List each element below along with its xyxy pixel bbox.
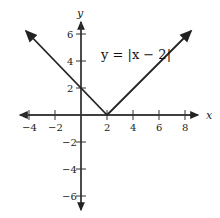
svg-text:−2: −2 bbox=[48, 122, 63, 133]
svg-text:6: 6 bbox=[156, 122, 162, 133]
svg-text:2: 2 bbox=[67, 83, 73, 94]
svg-text:4: 4 bbox=[130, 122, 136, 133]
svg-text:−6: −6 bbox=[62, 191, 77, 202]
svg-text:6: 6 bbox=[67, 29, 73, 40]
graph-canvas: x y −4 −2 2 4 6 8 6 4 2 −2 −4 −6 bbox=[0, 0, 220, 218]
svg-text:−4: −4 bbox=[62, 164, 77, 175]
svg-text:−2: −2 bbox=[62, 137, 77, 148]
x-axis-label: x bbox=[206, 109, 213, 122]
equation-label: y = |x − 2| bbox=[100, 47, 171, 62]
x-tick-labels: −4 −2 2 4 6 8 bbox=[22, 122, 188, 133]
svg-text:2: 2 bbox=[104, 122, 110, 133]
svg-text:4: 4 bbox=[67, 56, 73, 67]
svg-text:−4: −4 bbox=[22, 122, 37, 133]
svg-text:8: 8 bbox=[182, 122, 188, 133]
y-axis-label: y bbox=[76, 7, 84, 20]
function-curve bbox=[26, 31, 191, 115]
